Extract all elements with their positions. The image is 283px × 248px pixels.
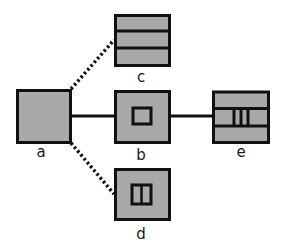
node-a-box xyxy=(18,91,71,143)
node-d[interactable] xyxy=(116,170,170,220)
diagram-canvas xyxy=(0,0,283,248)
node-b[interactable] xyxy=(116,92,170,143)
node-c-box xyxy=(116,16,170,66)
edge-a-d-dotted xyxy=(71,143,114,194)
label-a: a xyxy=(31,145,51,160)
node-e[interactable] xyxy=(214,92,269,143)
node-a[interactable] xyxy=(18,91,71,143)
label-e: e xyxy=(231,145,251,160)
label-d: d xyxy=(131,227,151,242)
edge-a-c-dotted xyxy=(71,40,114,89)
label-b: b xyxy=(131,148,151,163)
label-c: c xyxy=(131,70,151,85)
node-c[interactable] xyxy=(116,16,170,66)
node-b-inner-square xyxy=(133,108,151,124)
